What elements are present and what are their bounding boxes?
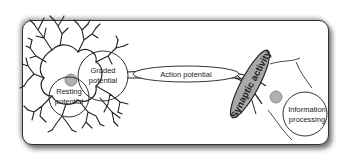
action-label: Action potential <box>160 70 212 79</box>
nucleus-icon <box>65 74 77 86</box>
action-potential-node: Action potential <box>133 66 239 82</box>
neuron-diagram: Resting potential Graded potential Actio… <box>0 0 351 157</box>
graded-label-line2: potential <box>89 76 118 85</box>
resting-label-line1: Resting <box>56 87 81 96</box>
resting-label-line2: potential <box>55 97 84 106</box>
synaptic-label: Synaptic activity <box>228 48 273 120</box>
info-label-line2: processing <box>289 115 325 124</box>
info-label-line1: Information <box>288 105 326 114</box>
spine-icon <box>270 91 282 103</box>
graded-label-line1: Graded <box>90 66 115 75</box>
information-processing-node: Information processing <box>283 92 327 136</box>
